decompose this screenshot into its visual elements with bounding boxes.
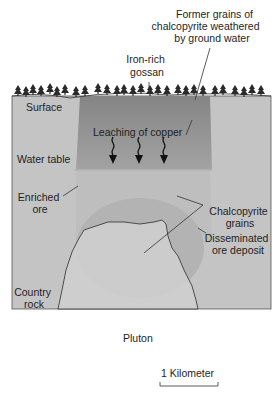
water-table-label: Water table xyxy=(17,153,70,165)
gossan-label: Iron-rich gossan xyxy=(126,53,167,78)
pluton-label: Pluton xyxy=(123,332,153,344)
disseminated-ore-label: Disseminated ore deposit xyxy=(205,232,272,256)
surface-label: Surface xyxy=(26,101,62,113)
diagram-canvas: Former grains of chalcopyrite weathered … xyxy=(0,0,279,393)
leaching-label: Leaching of copper xyxy=(93,126,183,138)
scale-bar xyxy=(160,382,218,386)
scale-bar-label: 1 Kilometer xyxy=(161,367,215,379)
former-grains-label: Former grains of chalcopyrite weathered … xyxy=(152,8,263,44)
